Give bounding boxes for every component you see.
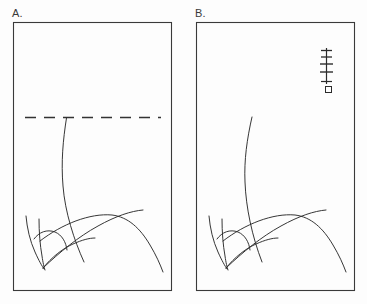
panel-b-leaf-right-long bbox=[223, 215, 346, 272]
panel-b-group bbox=[197, 23, 355, 291]
panel-a-leaf-mid-right bbox=[43, 238, 95, 268]
square-marker bbox=[326, 87, 332, 93]
panel-a-leaf-right-long bbox=[40, 215, 163, 272]
figure-root: A. B. bbox=[0, 0, 367, 304]
figure-canvas bbox=[0, 0, 367, 304]
panel-a-frame bbox=[14, 23, 172, 291]
panel-a-leaf-left bbox=[26, 216, 44, 269]
panel-b-frame bbox=[197, 23, 355, 291]
panel-b-leaf-arch-upper bbox=[226, 210, 326, 268]
panel-a-leaf-arch-upper bbox=[43, 210, 143, 268]
scale-bar-mark bbox=[320, 48, 333, 84]
panel-a-group bbox=[14, 23, 172, 291]
panel-a-tall-stem bbox=[62, 118, 84, 262]
panel-b-leaf-mid-right bbox=[226, 238, 278, 268]
panel-b-leaf-left bbox=[209, 216, 227, 269]
